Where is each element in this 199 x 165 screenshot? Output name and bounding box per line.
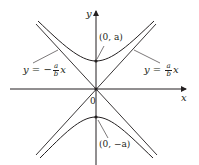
vertex-top-label: (0, a) — [99, 33, 123, 42]
origin-point — [94, 87, 97, 90]
fraction-denominator: b — [53, 71, 59, 78]
fraction-a-over-b: ab — [53, 63, 59, 78]
leader-top-vertex — [97, 46, 104, 59]
asymptote-left-prefix: y = − — [23, 64, 52, 75]
fraction-a-over-b: ab — [165, 63, 171, 78]
asymptote-right-prefix: y = — [144, 64, 164, 75]
leader-bottom-vertex — [98, 120, 108, 138]
vertex-bottom-point — [94, 115, 97, 118]
y-axis-label: y — [86, 9, 92, 19]
vertex-bottom-label: (0, −a) — [99, 140, 130, 149]
vertex-top-point — [94, 59, 97, 62]
fraction-denominator: b — [165, 71, 171, 78]
origin-label: 0 — [90, 97, 96, 106]
asymptote-right-label: y = abx — [144, 63, 179, 78]
x-axis-label: x — [181, 93, 187, 103]
asymptote-right-suffix: x — [173, 64, 179, 75]
asymptote-left-label: y = −abx — [23, 63, 66, 78]
asymptote-left-suffix: x — [60, 64, 66, 75]
leader-right-asymptote — [134, 50, 160, 63]
